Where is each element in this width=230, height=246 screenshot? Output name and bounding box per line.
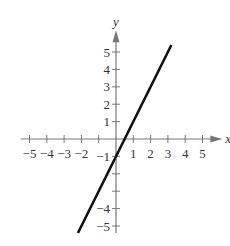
x-tick-label: −2: [74, 146, 88, 161]
y-tick-label: −5: [96, 219, 110, 234]
y-axis-arrow-icon: [113, 30, 120, 42]
x-tick-label: 1: [130, 146, 137, 161]
tick-labels: xy−5−4−3−212345−5−4−112345: [23, 14, 230, 233]
x-tick-label: 5: [199, 146, 206, 161]
x-tick-label: −5: [23, 146, 37, 161]
x-tick-label: 3: [165, 146, 172, 161]
y-tick-label: 3: [104, 79, 111, 94]
x-tick-label: −4: [40, 146, 54, 161]
line-graph: xy−5−4−3−212345−5−4−112345: [0, 0, 230, 246]
y-tick-label: 1: [104, 114, 111, 129]
y-tick-label: −1: [96, 149, 110, 164]
x-axis-label: x: [224, 131, 230, 146]
y-tick-label: 5: [104, 45, 111, 60]
x-axis-arrow-icon: [210, 136, 222, 143]
y-tick-label: 2: [104, 97, 111, 112]
x-tick-label: 2: [147, 146, 154, 161]
y-tick-label: 4: [104, 62, 111, 77]
y-axis-label: y: [111, 14, 119, 29]
x-tick-label: 4: [182, 146, 189, 161]
y-tick-label: −4: [96, 201, 110, 216]
x-tick-label: −3: [57, 146, 71, 161]
axes: [21, 30, 222, 233]
